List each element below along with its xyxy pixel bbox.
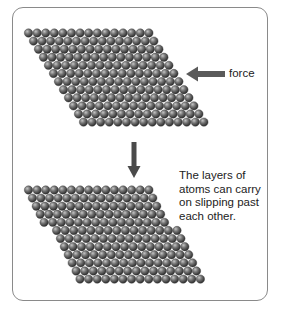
atom: [68, 86, 76, 94]
atom: [146, 243, 154, 251]
atom: [130, 102, 138, 110]
atom: [132, 77, 140, 85]
atom: [127, 202, 135, 210]
atom: [167, 251, 175, 259]
atom: [188, 275, 196, 283]
atom: [110, 202, 118, 210]
atom: [114, 118, 122, 126]
atom: [90, 37, 98, 45]
atom: [72, 77, 80, 85]
atom: [66, 218, 74, 226]
atom: [88, 194, 96, 202]
atom: [70, 210, 78, 218]
atom: [100, 218, 108, 226]
atom: [190, 102, 198, 110]
atom: [115, 37, 123, 45]
caption-line: atoms can carry: [179, 183, 269, 197]
atom: [88, 210, 96, 218]
atom: [121, 102, 129, 110]
atom: [71, 194, 79, 202]
atom: [120, 86, 128, 94]
atom: [109, 218, 117, 226]
atom: [78, 226, 86, 234]
atom: [165, 118, 173, 126]
atom: [176, 94, 184, 102]
atom: [119, 29, 127, 37]
atom: [72, 37, 80, 45]
atom: [88, 118, 96, 126]
atom: [113, 210, 121, 218]
atom: [124, 37, 132, 45]
atom: [151, 234, 159, 242]
atom: [76, 186, 84, 194]
atom: [118, 202, 126, 210]
atom: [79, 61, 87, 69]
atom: [75, 69, 83, 77]
atom: [129, 45, 137, 53]
atom: [129, 243, 137, 251]
atom: [188, 259, 196, 267]
atom: [53, 210, 61, 218]
atom: [120, 259, 128, 267]
atom: [49, 202, 57, 210]
atom: [125, 94, 133, 102]
atom: [109, 110, 117, 118]
atom: [105, 210, 113, 218]
atom: [143, 53, 151, 61]
atom: [39, 53, 47, 61]
atom: [134, 234, 142, 242]
atom: [85, 29, 93, 37]
atom: [136, 275, 144, 283]
atom: [85, 186, 93, 194]
atom: [70, 226, 78, 234]
atom: [196, 275, 204, 283]
atom: [91, 53, 99, 61]
atom: [123, 194, 131, 202]
atom: [110, 29, 118, 37]
atom: [113, 61, 121, 69]
atom: [115, 267, 123, 275]
atom: [143, 110, 151, 118]
atom: [138, 243, 146, 251]
caption-line: The layers of: [179, 169, 269, 183]
atom: [67, 186, 75, 194]
atom: [163, 86, 171, 94]
atom: [175, 77, 183, 85]
atom: [162, 275, 170, 283]
diagram-canvas: [0, 0, 281, 311]
atom: [98, 267, 106, 275]
atom: [168, 234, 176, 242]
atom: [160, 234, 168, 242]
atom: [84, 202, 92, 210]
caption-line: each other.: [179, 210, 269, 224]
atom: [110, 275, 118, 283]
atom: [82, 53, 90, 61]
atom: [116, 94, 124, 102]
atom: [125, 53, 133, 61]
atom: [58, 202, 66, 210]
atom: [64, 37, 72, 45]
atom: [112, 102, 120, 110]
atom: [154, 86, 162, 94]
atom: [105, 118, 113, 126]
atom: [72, 267, 80, 275]
atom: [94, 86, 102, 94]
atom: [118, 69, 126, 77]
atom: [69, 45, 77, 53]
atom: [77, 259, 85, 267]
atom: [158, 267, 166, 275]
atom: [74, 218, 82, 226]
atom: [93, 275, 101, 283]
atom: [155, 243, 163, 251]
atom: [86, 45, 94, 53]
atom: [181, 243, 189, 251]
atom: [81, 251, 89, 259]
atom: [37, 194, 45, 202]
atom: [183, 118, 191, 126]
atom: [103, 45, 111, 53]
atom-lattice-after-slip: [24, 186, 204, 283]
atom: [107, 37, 115, 45]
atom: [102, 259, 110, 267]
atom: [81, 37, 89, 45]
atom: [74, 234, 82, 242]
